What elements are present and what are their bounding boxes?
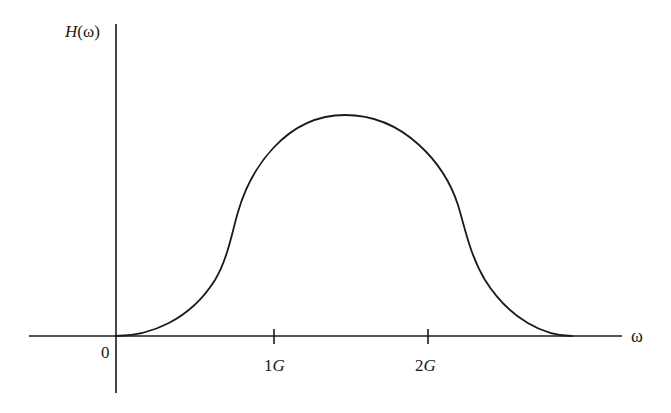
tick-label-2G: 2G: [415, 356, 436, 375]
tick-label-1G-num: 1: [264, 356, 273, 375]
x-axis-label: ω: [631, 326, 643, 346]
tick-label-2G-num: 2: [415, 356, 424, 375]
y-axis-label-arg: (ω): [77, 22, 100, 41]
tick-label-1G: 1G: [264, 356, 285, 375]
tick-label-1G-var: G: [273, 356, 285, 375]
tick-label-2G-var: G: [424, 356, 436, 375]
y-axis-label: H(ω): [64, 22, 100, 41]
chart-canvas: H(ω) 0 1G 2G ω: [0, 0, 671, 413]
origin-label: 0: [101, 343, 110, 362]
response-curve: [116, 115, 572, 336]
frequency-response-chart: H(ω) 0 1G 2G ω: [0, 0, 671, 413]
